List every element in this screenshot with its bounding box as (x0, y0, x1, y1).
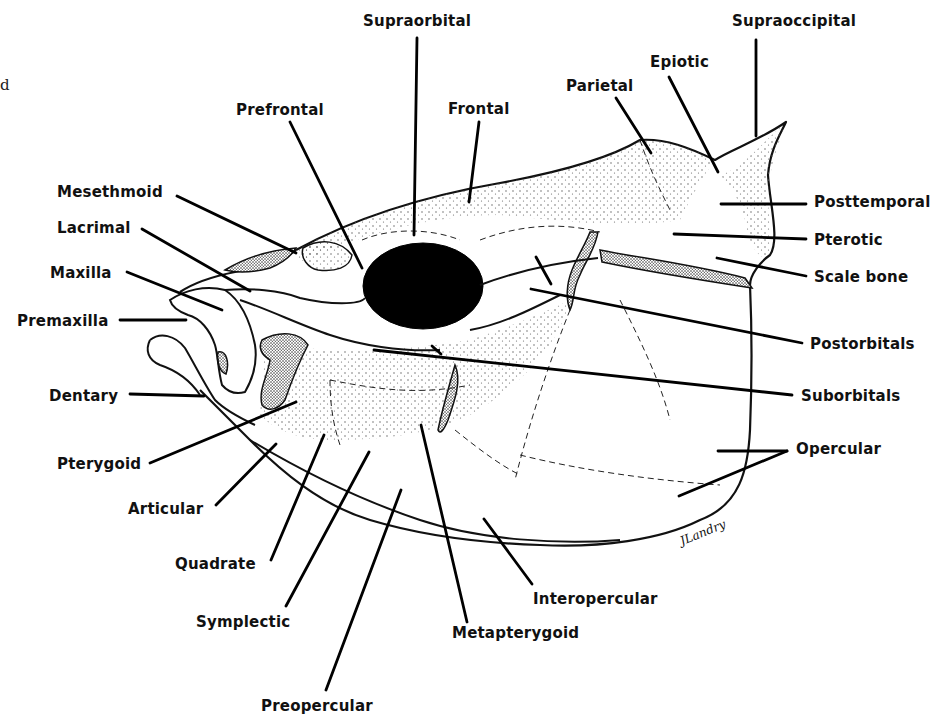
leader-quadrate (271, 435, 324, 560)
fish-skull-diagram: d (0, 0, 943, 721)
leader-interopercular (484, 519, 532, 584)
label-suborbitals: Suborbitals (801, 387, 900, 405)
leader-preopercular (326, 490, 401, 690)
label-maxilla: Maxilla (50, 264, 112, 282)
label-dentary: Dentary (49, 387, 118, 405)
leader-pterotic (674, 234, 806, 239)
label-posttemporal: Posttemporal (814, 193, 930, 211)
leader-scale-bone (717, 258, 806, 276)
label-premaxilla: Premaxilla (17, 312, 109, 330)
leader-lacrimal (142, 229, 250, 291)
label-postorbitals: Postorbitals (810, 335, 915, 353)
leader-opercular-b (679, 451, 787, 496)
leader-postorbitals-2 (536, 257, 551, 284)
label-metapterygoid: Metapterygoid (452, 624, 579, 642)
label-articular: Articular (128, 500, 203, 518)
leader-maxilla (127, 272, 222, 310)
label-preopercular: Preopercular (261, 697, 373, 715)
label-scale-bone: Scale bone (814, 268, 908, 286)
label-prefrontal: Prefrontal (236, 101, 324, 119)
label-supraorbital: Supraorbital (363, 12, 471, 30)
label-frontal: Frontal (448, 100, 510, 118)
label-supraoccipital: Supraoccipital (732, 12, 856, 30)
label-interopercular: Interopercular (533, 590, 658, 608)
label-quadrate: Quadrate (175, 555, 256, 573)
leader-postorbitals (531, 289, 802, 343)
leader-dentary (130, 394, 204, 396)
leader-mesethmoid (177, 196, 296, 253)
leader-symplectic (286, 452, 369, 606)
label-epiotic: Epiotic (650, 53, 709, 71)
label-pterotic: Pterotic (814, 231, 883, 249)
leader-articular (216, 444, 276, 505)
label-lacrimal: Lacrimal (57, 219, 131, 237)
label-mesethmoid: Mesethmoid (57, 183, 163, 201)
label-symplectic: Symplectic (196, 613, 290, 631)
label-pterygoid: Pterygoid (57, 455, 141, 473)
orbit (363, 243, 483, 329)
label-opercular: Opercular (796, 440, 881, 458)
label-parietal: Parietal (566, 77, 633, 95)
